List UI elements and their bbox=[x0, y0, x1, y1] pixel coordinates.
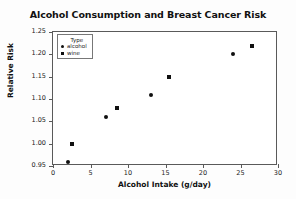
y-tick-label: 1.25 bbox=[32, 27, 46, 35]
chart-title: Alcohol Consumption and Breast Cancer Ri… bbox=[0, 9, 296, 20]
chart-figure: Alcohol Consumption and Breast Cancer Ri… bbox=[0, 0, 296, 199]
x-tick: 25 bbox=[241, 164, 242, 168]
legend-item-wine: wine bbox=[61, 51, 87, 57]
y-tick-label: 1.00 bbox=[32, 139, 46, 147]
x-tick: 20 bbox=[203, 164, 204, 168]
y-tick-label: 1.20 bbox=[32, 49, 46, 57]
x-tick-label: 15 bbox=[161, 169, 169, 177]
square-marker-icon bbox=[61, 52, 64, 55]
data-point-alcohol bbox=[104, 115, 108, 119]
x-tick-label: 10 bbox=[124, 169, 132, 177]
y-axis-label: Relative Risk bbox=[6, 43, 15, 98]
legend: Type alcoholwine bbox=[57, 34, 93, 59]
data-point-wine bbox=[167, 75, 171, 79]
x-tick-label: 5 bbox=[88, 169, 92, 177]
circle-marker-icon bbox=[61, 45, 64, 48]
y-tick-label: 0.95 bbox=[32, 161, 46, 169]
x-tick-label: 20 bbox=[199, 169, 207, 177]
x-tick: 0 bbox=[53, 164, 54, 168]
data-point-wine bbox=[115, 106, 119, 110]
data-point-wine bbox=[70, 142, 74, 146]
y-tick-label: 1.10 bbox=[32, 94, 46, 102]
x-axis-label: Alcohol Intake (g/day) bbox=[52, 180, 277, 189]
x-tick: 5 bbox=[91, 164, 92, 168]
data-point-alcohol bbox=[149, 93, 153, 97]
data-point-alcohol bbox=[231, 52, 235, 56]
legend-item-label: alcohol bbox=[67, 44, 87, 50]
x-tick: 30 bbox=[278, 164, 279, 168]
data-point-wine bbox=[250, 44, 254, 48]
x-tick-label: 25 bbox=[236, 169, 244, 177]
y-tick-label: 1.05 bbox=[32, 116, 46, 124]
y-tick-label: 1.15 bbox=[32, 72, 46, 80]
x-tick: 15 bbox=[166, 164, 167, 168]
x-tick-label: 0 bbox=[51, 169, 55, 177]
data-point-alcohol bbox=[66, 160, 70, 164]
x-tick-label: 30 bbox=[274, 169, 282, 177]
legend-entries: alcoholwine bbox=[61, 44, 87, 56]
legend-item-label: wine bbox=[67, 51, 80, 57]
x-tick: 10 bbox=[128, 164, 129, 168]
legend-item-alcohol: alcohol bbox=[61, 44, 87, 50]
